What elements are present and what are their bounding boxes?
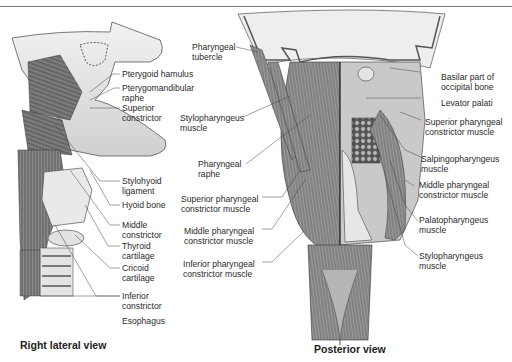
label-middle-pharyngeal-constrictor-left: Middle pharyngealconstrictor muscle: [184, 226, 254, 246]
label-stylopharyngeus-muscle-right: Stylopharyngeusmuscle: [419, 251, 483, 271]
label-pterygoid-hamulus: Pterygoid hamulus: [122, 69, 193, 79]
label-pterygomandibular-raphe: Pterygomandibularraphe: [122, 83, 194, 103]
label-levator-palati: Levator palati: [441, 98, 493, 108]
label-superior-pharyngeal-constrictor-right: Superior pharyngealconstrictor muscle: [425, 117, 502, 137]
caption-right-lateral-view: Right lateral view: [20, 339, 106, 351]
label-basilar-part-occipital-bone: Basilar part ofoccipital bone: [441, 72, 494, 92]
label-inferior-pharyngeal-constrictor: Inferior pharyngealconstrictor muscle: [183, 259, 255, 279]
caption-posterior-view: Posterior view: [314, 343, 386, 355]
label-thyroid-cartilage: Thyroidcartilage: [122, 241, 154, 261]
label-middle-pharyngeal-constrictor-right: Middle pharyngealconstrictor muscle: [419, 180, 489, 200]
label-hyoid-bone: Hyoid bone: [122, 200, 165, 210]
label-pharyngeal-raphe: Pharyngealraphe: [198, 159, 241, 179]
label-superior-pharyngeal-constrictor-left: Superior pharyngealconstrictor muscle: [181, 194, 258, 214]
label-pharyngeal-tubercle: Pharyngealtubercle: [192, 42, 235, 62]
label-stylopharyngeus-muscle-left: Stylopharyngeusmuscle: [180, 113, 244, 133]
label-cricoid-cartilage: Cricoidcartilage: [122, 263, 154, 283]
label-stylohyoid-ligament: Stylohyoidligament: [122, 176, 162, 196]
label-salpingopharyngeus-muscle: Salpingopharyngeusmuscle: [421, 154, 499, 174]
label-inferior-constrictor: Inferiorconstrictor: [122, 291, 162, 311]
label-superior-constrictor: Superiorconstrictor: [122, 103, 162, 123]
posterior-view-art: [236, 10, 445, 345]
label-middle-constrictor: Middleconstrictor: [122, 220, 162, 240]
label-esophagus: Esophagus: [122, 316, 165, 326]
label-palatopharyngeus-muscle: Palatopharyngeusmuscle: [419, 215, 488, 235]
